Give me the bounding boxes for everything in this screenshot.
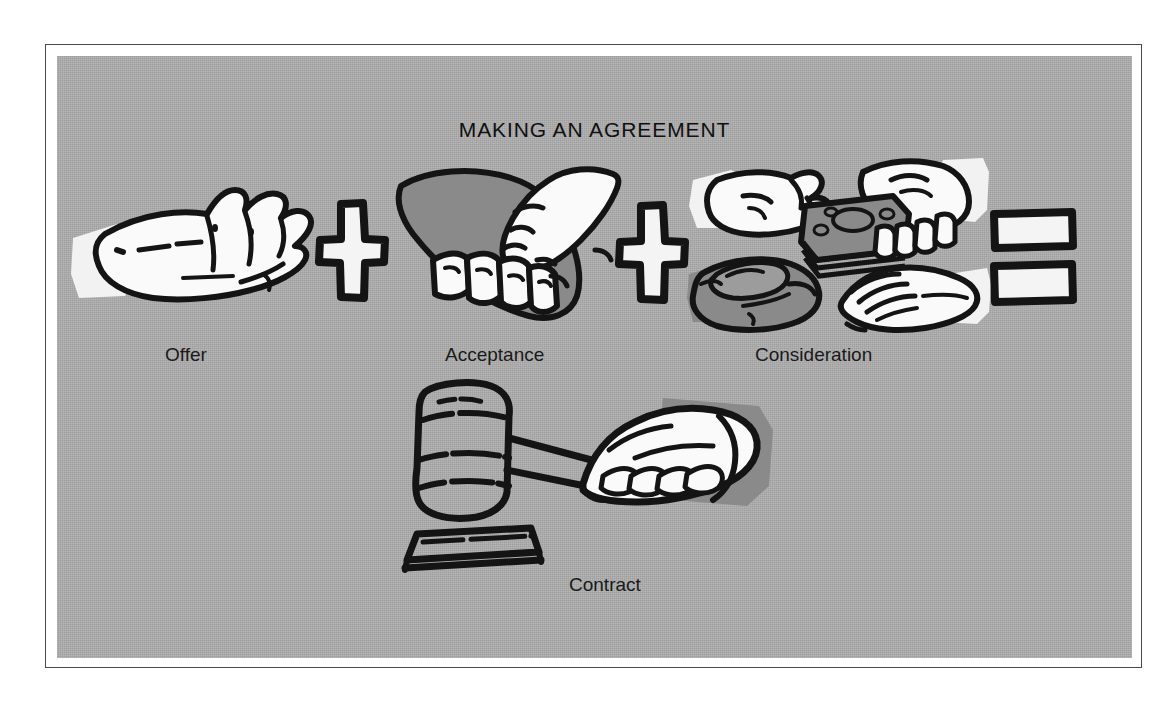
illustration-page: MAKING AN AGREEMENT <box>0 0 1175 712</box>
illustration-title: MAKING AN AGREEMENT <box>57 118 1132 142</box>
plus-operator-icon-1 <box>315 199 387 303</box>
contract-illustration <box>387 376 807 591</box>
handshake-icon <box>399 169 619 318</box>
caption-contract: Contract <box>569 574 641 596</box>
caption-acceptance: Acceptance <box>445 344 544 366</box>
offer-illustration <box>65 166 315 331</box>
open-palm-hand-icon <box>71 190 311 299</box>
equals-operator-icon <box>989 208 1077 306</box>
caption-consideration: Consideration <box>755 344 872 366</box>
gavel-in-hand-icon <box>405 383 773 570</box>
caption-offer: Offer <box>165 344 207 366</box>
plus-operator-icon-2 <box>615 201 687 305</box>
consideration-illustration <box>687 156 992 346</box>
acceptance-illustration <box>387 156 622 341</box>
illustration-plate: MAKING AN AGREEMENT <box>57 56 1132 658</box>
hands-exchanging-money-icon <box>687 158 991 330</box>
